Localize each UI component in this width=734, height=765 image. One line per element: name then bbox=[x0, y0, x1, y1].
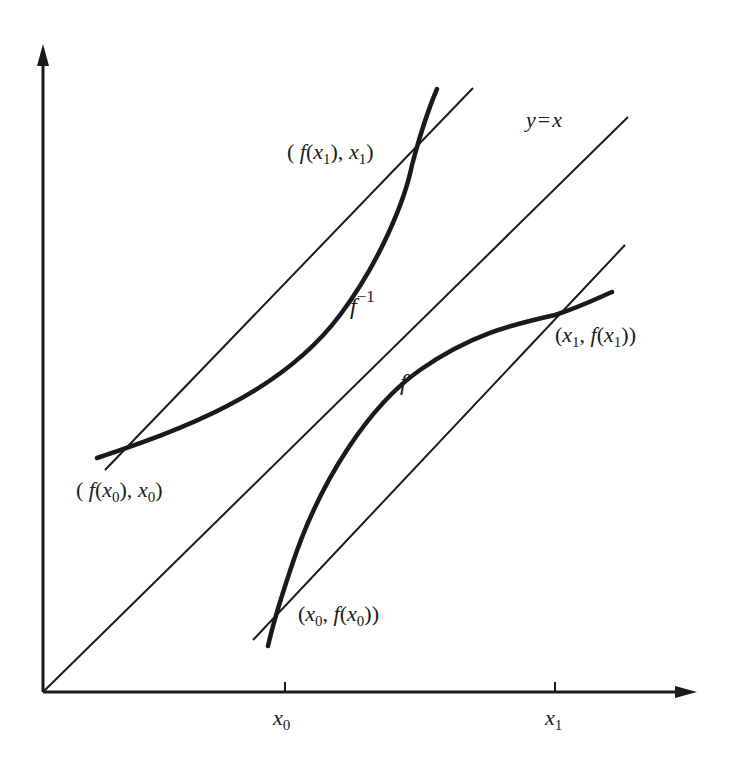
x0-tick-label: x0 bbox=[272, 705, 290, 733]
point-label-f-x1: (x1, f(x1)) bbox=[555, 322, 636, 350]
secant-line-f bbox=[253, 245, 625, 640]
identity-line-label: y=x bbox=[524, 107, 562, 132]
inverse-function-diagram: y=x f−1 f ( f(x1), x1) (x1, f(x1)) ( f(x… bbox=[0, 0, 734, 765]
x1-tick-label: x1 bbox=[544, 705, 562, 733]
point-label-finv-x1: ( f(x1), x1) bbox=[287, 139, 373, 167]
x-axis-arrow-icon bbox=[675, 686, 697, 698]
point-label-finv-x0: ( f(x0), x0) bbox=[76, 477, 162, 505]
y-axis-arrow-icon bbox=[37, 44, 49, 66]
f-label: f bbox=[400, 369, 410, 395]
point-label-f-x0: (x0, f(x0)) bbox=[298, 601, 379, 629]
